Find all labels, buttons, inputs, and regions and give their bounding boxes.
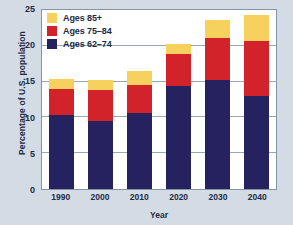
bar-segment	[49, 115, 73, 189]
bar-segment	[88, 121, 112, 189]
legend-label: Ages 85+	[63, 13, 102, 23]
bar-segment	[49, 89, 73, 115]
bar-segment	[127, 113, 151, 189]
bar-segment	[166, 54, 190, 86]
stacked-bar[interactable]	[127, 71, 151, 189]
y-tick-label: 20	[25, 40, 35, 50]
bar-segment	[244, 96, 268, 189]
bar-segment	[127, 85, 151, 113]
bar-segment	[244, 41, 268, 96]
bar-slot	[237, 10, 276, 189]
chart-legend: Ages 85+Ages 75–84Ages 62–74	[47, 13, 112, 49]
bar-segment	[205, 38, 229, 80]
y-tick-label: 0	[30, 185, 35, 195]
legend-item[interactable]: Ages 62–74	[47, 39, 112, 49]
y-tick-label: 25	[25, 4, 35, 14]
stacked-bar[interactable]	[166, 44, 190, 189]
x-axis-ticks: 199020002010202020302040	[41, 192, 277, 208]
bar-segment	[49, 79, 73, 89]
x-tick-label: 2010	[120, 192, 159, 208]
x-tick-label: 2030	[198, 192, 237, 208]
legend-item[interactable]: Ages 85+	[47, 13, 112, 23]
bar-slot	[120, 10, 159, 189]
legend-swatch-icon	[47, 39, 57, 49]
legend-swatch-icon	[47, 13, 57, 23]
chart-figure: Percentage of U.S. population 0510152025…	[0, 0, 293, 225]
bar-segment	[166, 86, 190, 189]
legend-swatch-icon	[47, 26, 57, 36]
legend-item[interactable]: Ages 75–84	[47, 26, 112, 36]
x-tick-label: 2000	[80, 192, 119, 208]
stacked-bar[interactable]	[88, 80, 112, 189]
x-tick-label: 1990	[41, 192, 80, 208]
x-tick-label: 2020	[159, 192, 198, 208]
y-tick-label: 10	[25, 113, 35, 123]
bar-segment	[88, 80, 112, 90]
stacked-bar[interactable]	[49, 79, 73, 189]
stacked-bar[interactable]	[205, 20, 229, 189]
bar-segment	[88, 90, 112, 121]
x-axis-title: Year	[41, 210, 277, 220]
stacked-bar[interactable]	[244, 15, 268, 189]
legend-label: Ages 75–84	[63, 26, 112, 36]
bar-segment	[127, 71, 151, 85]
x-tick-label: 2040	[238, 192, 277, 208]
bar-slot	[159, 10, 198, 189]
bar-segment	[205, 20, 229, 38]
bar-segment	[166, 44, 190, 54]
y-axis-ticks: 0510152025	[0, 0, 38, 225]
bar-segment	[244, 15, 268, 41]
y-tick-label: 5	[30, 149, 35, 159]
legend-label: Ages 62–74	[63, 39, 112, 49]
y-tick-label: 15	[25, 76, 35, 86]
bar-slot	[198, 10, 237, 189]
bar-segment	[205, 80, 229, 189]
